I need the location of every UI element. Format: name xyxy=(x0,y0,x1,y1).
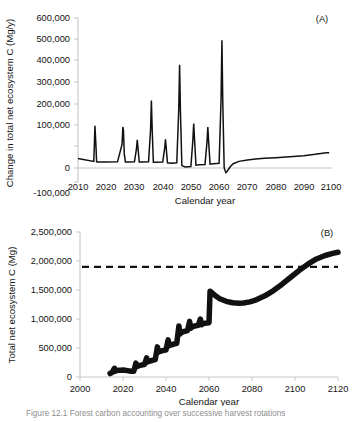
panel-a-ytick-500000: 500,000 xyxy=(36,34,70,44)
panel-b-ytick-2500000: 2,500,000 xyxy=(31,227,72,237)
panel-b-ytick-0: 0 xyxy=(67,372,72,382)
panel-b-xtick-2000: 2000 xyxy=(70,384,91,394)
panel-a-ytick-400000: 400,000 xyxy=(36,55,70,65)
panel-b-x-ticks xyxy=(80,377,338,381)
panel-a-y-ticks xyxy=(74,18,78,182)
panel-b-xtick-2080: 2080 xyxy=(242,384,263,394)
panel-a-xtick-2010: 2010 xyxy=(68,182,89,192)
panel-b-xtick-2020: 2020 xyxy=(113,384,134,394)
panel-a-xtick-2040: 2040 xyxy=(153,182,174,192)
panel-b-y-axis-title: Total net ecosystem C (Mg) xyxy=(6,247,17,364)
panel-a-ytick-200000: 200,000 xyxy=(36,99,70,109)
panel-a-xtick-2090: 2090 xyxy=(294,182,315,192)
panel-a-xtick-2070: 2070 xyxy=(237,182,258,192)
panel-b-xtick-2040: 2040 xyxy=(156,384,177,394)
panel-a-xtick-2060: 2060 xyxy=(209,182,230,192)
panel-b-xtick-2120: 2120 xyxy=(328,384,349,394)
panel-b-label: (B) xyxy=(321,228,333,238)
panel-a-xtick-2080: 2080 xyxy=(266,182,287,192)
panel-a-y-axis-title: Change in total net ecosystem C (Mg/y) xyxy=(4,19,15,188)
panel-b-x-axis-title: Calendar year xyxy=(179,396,240,406)
panel-b-ytick-1000000: 1,000,000 xyxy=(31,314,72,324)
panel-b-xtick-2060: 2060 xyxy=(199,384,220,394)
panel-a-plot: 600,000 500,000 400,000 300,000 200,000 … xyxy=(0,0,352,206)
figure-caption: Figure 12.1 Forest carbon accounting ove… xyxy=(0,406,352,422)
panel-a-label: (A) xyxy=(316,14,328,24)
panel-b-ytick-2000000: 2,000,000 xyxy=(31,256,72,266)
panel-a-x-axis-title: Calendar year xyxy=(175,195,236,206)
figure-container: 600,000 500,000 400,000 300,000 200,000 … xyxy=(0,0,352,422)
panel-a-series-line xyxy=(78,40,329,172)
panel-b-xtick-2100: 2100 xyxy=(285,384,306,394)
panel-a-xtick-2030: 2030 xyxy=(124,182,145,192)
panel-b: 2,500,000 2,000,000 1,500,000 1,000,000 … xyxy=(0,206,352,406)
panel-b-ytick-500000: 500,000 xyxy=(38,343,72,353)
panel-a-ytick-neg100000: -100,000 xyxy=(33,188,70,198)
panel-a-xtick-2050: 2050 xyxy=(181,182,202,192)
panel-b-series-line xyxy=(110,252,338,373)
panel-a-ytick-0: 0 xyxy=(65,163,70,173)
panel-b-ytick-1500000: 1,500,000 xyxy=(31,285,72,295)
panel-a-xtick-2020: 2020 xyxy=(96,182,117,192)
panel-a-xtick-2100: 2100 xyxy=(321,182,342,192)
panel-a-ytick-300000: 300,000 xyxy=(36,77,70,87)
panel-a: 600,000 500,000 400,000 300,000 200,000 … xyxy=(0,0,352,206)
panel-b-plot: 2,500,000 2,000,000 1,500,000 1,000,000 … xyxy=(0,206,352,406)
panel-b-y-ticks xyxy=(76,232,80,377)
panel-a-ytick-100000: 100,000 xyxy=(36,120,70,130)
panel-a-ytick-600000: 600,000 xyxy=(36,13,70,23)
